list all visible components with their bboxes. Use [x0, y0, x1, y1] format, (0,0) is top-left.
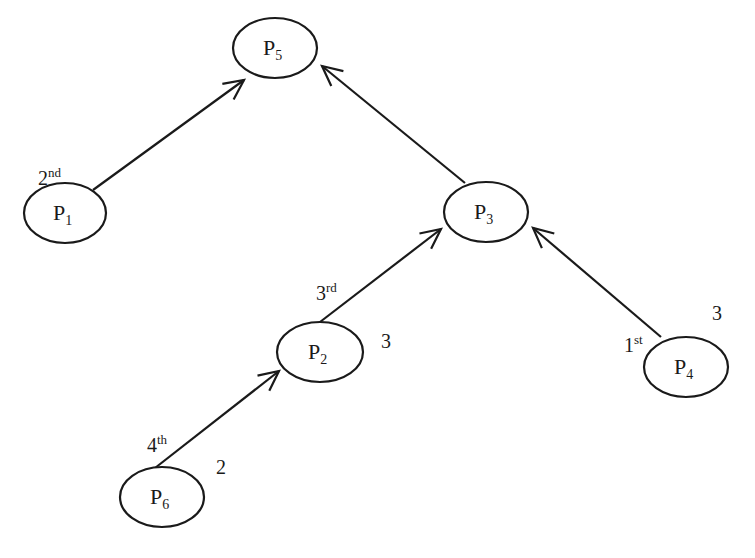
- weight-label: 3: [381, 330, 391, 352]
- node-label-letter: P: [308, 339, 320, 364]
- order-number: 1: [624, 334, 634, 356]
- precedence-tree-diagram: P5P12ndP3P23rd3P41st3P64th2: [0, 0, 755, 558]
- node-p4: P41st3: [624, 302, 728, 397]
- order-suffix: nd: [48, 165, 62, 180]
- edge-line: [155, 371, 279, 468]
- node-label-subscript: 2: [320, 352, 327, 367]
- order-label: 1st: [624, 332, 643, 356]
- node-p1: P12nd: [24, 165, 106, 243]
- node-p5: P5: [233, 18, 317, 78]
- edge-p2-to-p3: [320, 229, 441, 322]
- node-p3: P3: [444, 182, 528, 242]
- order-suffix: st: [634, 332, 643, 347]
- nodes-layer: P5P12ndP3P23rd3P41st3P64th2: [24, 18, 728, 527]
- edge-p4-to-p3: [533, 228, 661, 337]
- edge-line: [320, 229, 441, 322]
- order-number: 3: [316, 282, 326, 304]
- node-label-letter: P: [263, 35, 275, 60]
- edge-p3-to-p5: [322, 66, 465, 183]
- order-number: 2: [38, 167, 48, 189]
- order-number: 4: [147, 434, 157, 456]
- node-label-letter: P: [474, 199, 486, 224]
- order-suffix: rd: [326, 280, 337, 295]
- node-label-letter: P: [674, 354, 686, 379]
- edge-p6-to-p2: [155, 371, 279, 468]
- node-label-subscript: 5: [275, 48, 282, 63]
- order-label: 4th: [147, 432, 168, 456]
- edge-line: [93, 80, 244, 190]
- node-label-subscript: 1: [65, 213, 72, 228]
- node-label-subscript: 4: [686, 367, 693, 382]
- node-label-subscript: 3: [486, 212, 493, 227]
- node-p2: P23rd3: [277, 280, 391, 382]
- edge-line: [322, 66, 465, 183]
- order-label: 3rd: [316, 280, 337, 304]
- weight-label: 2: [216, 456, 226, 478]
- edge-line: [533, 228, 661, 337]
- weight-label: 3: [712, 302, 722, 324]
- node-label-subscript: 6: [162, 497, 169, 512]
- node-label-letter: P: [53, 200, 65, 225]
- node-label-letter: P: [150, 484, 162, 509]
- node-p6: P64th2: [120, 432, 226, 527]
- edges-layer: [93, 66, 661, 468]
- order-suffix: th: [157, 432, 168, 447]
- edge-p1-to-p5: [93, 80, 244, 190]
